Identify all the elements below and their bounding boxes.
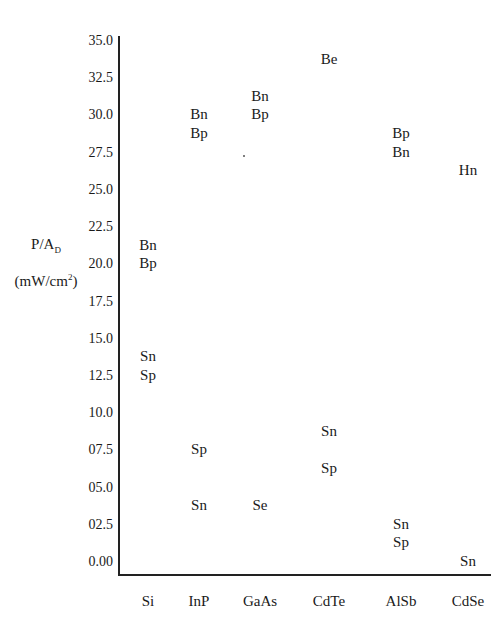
y-tick-label: 02.5 <box>63 517 113 533</box>
x-category-label: CdSe <box>438 593 498 610</box>
data-point-label: Bn <box>240 88 280 105</box>
y-tick-label: 30.0 <box>63 107 113 123</box>
x-category-label: GaAs <box>230 593 290 610</box>
data-point-label: Sn <box>381 516 421 533</box>
x-category-label: AlSb <box>371 593 431 610</box>
y-tick-label: 17.5 <box>63 294 113 310</box>
y-tick-label: 12.5 <box>63 368 113 384</box>
y-tick-label: 25.0 <box>63 182 113 198</box>
data-point-label: Sp <box>309 460 349 477</box>
data-point-label: Sn <box>309 423 349 440</box>
y-tick-label: 22.5 <box>63 219 113 235</box>
data-point-label: Hn <box>448 162 488 179</box>
stray-dot-mark <box>243 155 245 157</box>
data-point-label: Sp <box>381 534 421 551</box>
y-tick-label: 15.0 <box>63 331 113 347</box>
x-category-label: InP <box>169 593 229 610</box>
data-point-label: Bp <box>128 255 168 272</box>
data-point-label: Se <box>240 497 280 514</box>
data-point-label: Sn <box>448 553 488 570</box>
y-axis-title: P/AD <box>0 236 96 255</box>
x-category-label: CdTe <box>299 593 359 610</box>
data-point-label: Sp <box>179 441 219 458</box>
data-point-label: Bp <box>179 125 219 142</box>
y-tick-label: 0.00 <box>63 554 113 570</box>
data-point-label: Bn <box>381 144 421 161</box>
y-tick-label: 07.5 <box>63 442 113 458</box>
data-point-label: Sn <box>179 497 219 514</box>
y-axis-unit: (mW/cm2) <box>0 272 96 290</box>
y-tick-label: 20.0 <box>63 256 113 272</box>
chart: P/AD (mW/cm2) 35.032.530.027.525.022.520… <box>0 0 500 630</box>
data-point-label: Bn <box>179 106 219 123</box>
data-point-label: Bn <box>128 237 168 254</box>
y-tick-label: 35.0 <box>63 33 113 49</box>
data-point-label: Bp <box>381 125 421 142</box>
data-point-label: Bp <box>240 106 280 123</box>
data-point-label: Be <box>309 51 349 68</box>
data-point-label: Sn <box>128 348 168 365</box>
y-tick-label: 27.5 <box>63 145 113 161</box>
y-tick-label: 10.0 <box>63 405 113 421</box>
y-axis-line <box>118 36 120 576</box>
x-axis-line <box>118 574 491 576</box>
y-tick-label: 05.0 <box>63 480 113 496</box>
y-tick-label: 32.5 <box>63 70 113 86</box>
data-point-label: Sp <box>128 367 168 384</box>
